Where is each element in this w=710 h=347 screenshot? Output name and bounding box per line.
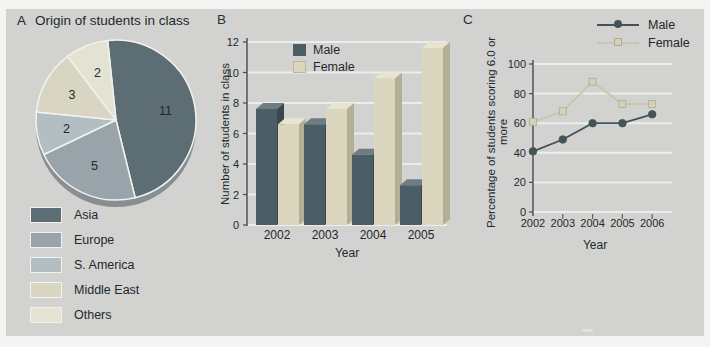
line-legend-item-female: Female: [597, 35, 690, 50]
pie-legend-item-europe: Europe: [30, 231, 139, 248]
x-tick-label-2002: 2002: [521, 217, 545, 229]
male-line-key: [597, 20, 639, 29]
y-tick-label-20: 20: [514, 176, 526, 188]
europe-swatch: [30, 232, 62, 248]
bar-chart-legend: Male Female: [293, 43, 355, 77]
female-label: Female: [648, 36, 690, 50]
others-label: Others: [74, 308, 112, 322]
male-point-2006: [648, 111, 656, 119]
y-tick-label-8: 8: [233, 97, 239, 109]
female-point-2003: [559, 108, 566, 115]
x-tick-label-2004: 2004: [360, 228, 387, 242]
pie-chart-title: AOrigin of students in class: [17, 13, 190, 28]
female-point-2004: [589, 78, 596, 85]
male-label: Male: [648, 18, 675, 32]
x-tick-label-2004: 2004: [580, 217, 604, 229]
middle-east-swatch: [30, 282, 62, 298]
panel-letter-a: A: [17, 13, 26, 28]
male-point-2003: [559, 136, 567, 144]
y-tick-label-60: 60: [514, 117, 526, 129]
x-tick-label-2005: 2005: [610, 217, 634, 229]
middle-east-label: Middle East: [74, 283, 139, 297]
female-point-2006: [649, 100, 656, 107]
panel-letter-b: B: [217, 12, 226, 27]
bar-side-face: [443, 42, 450, 225]
pie-value-label: 5: [91, 159, 98, 173]
bar-female: [374, 79, 395, 226]
s-america-swatch: [30, 257, 62, 273]
female-swatch: [293, 61, 306, 73]
pie-legend-item-asia: Asia: [30, 206, 139, 223]
y-tick-label-2: 2: [233, 189, 239, 201]
x-tick-label-2003: 2003: [312, 228, 339, 242]
asia-label: Asia: [74, 208, 98, 222]
pie-value-label: 3: [69, 88, 76, 102]
bar-male: [352, 155, 373, 225]
x-tick-label-2002: 2002: [264, 228, 291, 242]
pie-legend-item-middle-east: Middle East: [30, 281, 139, 298]
bar-male: [400, 185, 421, 225]
y-tick-label-40: 40: [514, 147, 526, 159]
s-america-label: S. America: [74, 258, 134, 272]
x-tick-label-2006: 2006: [640, 217, 664, 229]
y-tick-label-0: 0: [233, 219, 239, 231]
female-line-key: [597, 38, 639, 47]
female-point-2005: [619, 100, 626, 107]
y-tick-label-80: 80: [514, 88, 526, 100]
y-tick-label-12: 12: [227, 36, 239, 48]
line-chart-legend: Male Female: [597, 17, 690, 53]
y-tick-label-10: 10: [227, 67, 239, 79]
x-tick-label-2003: 2003: [551, 217, 575, 229]
x-axis-label: Year: [583, 238, 607, 252]
scan-artifact-dash: [582, 329, 593, 332]
bar-male: [256, 109, 277, 225]
female-line: [533, 82, 652, 122]
pie-value-label: 2: [63, 122, 70, 136]
x-axis-label: Year: [335, 246, 359, 260]
bar-legend-item-male: Male: [293, 43, 355, 57]
pie-title-text: Origin of students in class: [35, 13, 190, 28]
y-tick-label-100: 100: [508, 58, 526, 70]
male-swatch: [293, 44, 306, 56]
line-chart: 02040608010020022003200420052006Year: [455, 55, 705, 255]
male-point-2002: [529, 148, 537, 156]
others-swatch: [30, 307, 62, 323]
bar-legend-item-female: Female: [293, 60, 355, 74]
pie-legend-item-others: Others: [30, 306, 139, 323]
europe-label: Europe: [74, 233, 114, 247]
female-square-marker-icon: [614, 38, 622, 46]
y-tick-label-4: 4: [233, 158, 239, 170]
bar-female: [422, 48, 443, 225]
y-tick-label-6: 6: [233, 128, 239, 140]
asia-swatch: [30, 207, 62, 223]
female-label: Female: [313, 60, 355, 74]
pie-value-label: 11: [159, 104, 172, 118]
pie-chart: 115232: [16, 28, 216, 228]
x-tick-label-2005: 2005: [408, 228, 435, 242]
pie-value-label: 2: [94, 66, 101, 80]
line-legend-item-male: Male: [597, 17, 690, 32]
female-point-2002: [530, 118, 537, 125]
bar-female: [278, 124, 299, 225]
male-point-2004: [589, 119, 597, 127]
pie-legend-item-s-america: S. America: [30, 256, 139, 273]
bar-male: [304, 124, 325, 225]
male-label: Male: [313, 43, 340, 57]
male-point-2005: [619, 119, 627, 127]
male-circle-marker-icon: [614, 20, 622, 28]
bar-female: [326, 109, 347, 225]
pie-legend: Asia Europe S. America Middle East Other…: [30, 206, 139, 331]
panel-letter-c: C: [463, 12, 473, 27]
